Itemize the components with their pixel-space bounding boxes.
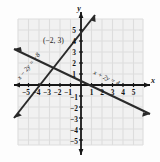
xtick-label: −4 (33, 88, 41, 97)
ytick-label: 4 (72, 37, 76, 46)
xtick-label: −2 (54, 88, 62, 97)
ytick-label: 3 (72, 48, 76, 57)
ytick-label: 5 (72, 26, 76, 35)
xtick-label: 4 (121, 88, 125, 97)
x-axis-label: x (150, 76, 155, 85)
ytick-label: 2 (72, 59, 76, 68)
x-axis-arrow (144, 83, 150, 88)
graph-figure: −5 −4 −3 −2 −1 1 2 3 4 5 5 4 3 2 1 −1 −2… (0, 0, 160, 162)
xtick-label: 1 (90, 88, 94, 97)
xtick-label: 3 (111, 88, 115, 97)
coordinate-plane-svg: −5 −4 −3 −2 −1 1 2 3 4 5 5 4 3 2 1 −1 −2… (0, 0, 160, 162)
ytick-label: 1 (72, 70, 76, 79)
xtick-label: −3 (43, 88, 51, 97)
y-axis-arrow-down (79, 149, 84, 155)
x-axis-arrow-left (14, 83, 20, 88)
ytick-label: −3 (70, 115, 78, 124)
ytick-label: −5 (70, 137, 78, 146)
xtick-label: −5 (22, 88, 30, 97)
ytick-label: −2 (70, 104, 78, 113)
xtick-label: 5 (132, 88, 136, 97)
xtick-label: 2 (100, 88, 104, 97)
y-axis-label: y (76, 4, 81, 13)
ytick-label: −4 (70, 126, 78, 135)
point-label: (−2, 3) (43, 36, 64, 45)
ytick-label: −1 (70, 93, 78, 102)
